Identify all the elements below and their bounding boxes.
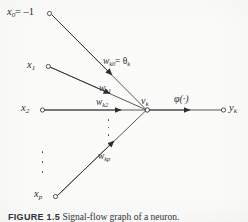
caption-label: FIGURE 1.5 <box>8 212 60 222</box>
wk2-subscript: k2 <box>102 101 108 108</box>
label-output: yk <box>229 103 237 115</box>
node-circle-input1 <box>46 64 50 68</box>
node-circle-output <box>221 108 225 112</box>
label-weight-k1: wk1 <box>99 84 111 94</box>
caption-text: Signal-flow graph of a neuron. <box>62 212 179 222</box>
wk0-theta-subscript: k <box>127 60 130 67</box>
vertical-dots-inputs <box>41 151 44 173</box>
label-weight-k0: wk0= θk <box>103 57 130 67</box>
input2-subscript: 2 <box>26 107 29 115</box>
vertical-dots-weights <box>107 119 110 136</box>
label-input-p: xp <box>34 189 42 201</box>
input1-subscript: 1 <box>32 64 35 72</box>
node-circle-bias <box>47 11 51 15</box>
phi-symbol: φ(·) <box>174 93 189 104</box>
inputp-subscript: p <box>39 193 42 201</box>
wk0-equals-theta: = θ <box>115 56 127 66</box>
label-weight-k2: wk2 <box>96 98 108 108</box>
label-input-2: x2 <box>21 103 29 115</box>
node-circle-inputp <box>53 194 57 198</box>
figure-signal-flow-graph-of-a-neuron: x0= –1 x1 x2 xp wk0= θk wk1 wk2 wkp vk φ… <box>0 0 248 222</box>
node-circle-input2 <box>40 108 44 112</box>
wk1-subscript: k1 <box>105 87 111 94</box>
label-input-1: x1 <box>27 60 35 72</box>
label-weight-kp: wkp <box>98 152 110 162</box>
wkp-subscript: kp <box>104 155 110 162</box>
bias-value: = –1 <box>15 6 34 17</box>
label-induced-local-field: vk <box>141 96 148 108</box>
figure-caption: FIGURE 1.5 Signal-flow graph of a neuron… <box>8 212 244 222</box>
yk-subscript: k <box>234 107 237 115</box>
label-bias-input: x0= –1 <box>7 7 34 19</box>
edge-bias-to-node <box>52 15 147 111</box>
vk-subscript: k <box>145 100 148 107</box>
node-circle-summing-junction <box>145 108 149 112</box>
label-activation-function: φ(·) <box>174 94 189 104</box>
